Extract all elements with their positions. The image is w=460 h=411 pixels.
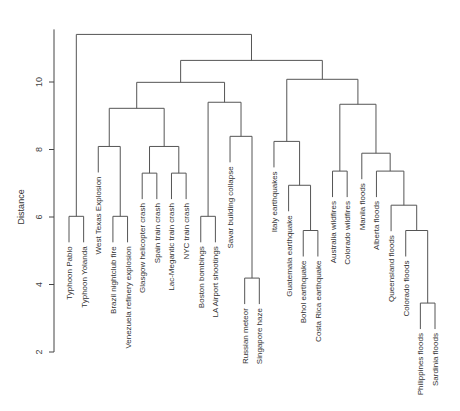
y-axis: 246810Distance: [16, 29, 54, 354]
y-tick-label: 4: [34, 282, 44, 287]
leaf-label: Typhoon Pablo: [65, 246, 74, 300]
leaf-label: Costa Rica earthquake: [314, 260, 323, 342]
leaf-label: Philippines floods: [416, 333, 425, 395]
leaf-label: Typhoon Yolanda: [80, 246, 89, 308]
leaf-label: Savar building collapse: [226, 166, 235, 249]
leaf-label: Spain train crash: [153, 203, 162, 263]
leaf-label: Manila floods: [358, 183, 367, 230]
leaf-label: LA Airport shootings: [211, 246, 220, 317]
leaf-label: Sardinia floods: [431, 333, 440, 386]
leaf-label: NYC train crash: [182, 203, 191, 259]
leaf-label: Lac-Megantic train crash: [167, 203, 176, 291]
leaf-label: Glasgow helicopter crash: [138, 203, 147, 293]
leaf-label: Boston bombings: [197, 246, 206, 308]
leaf-label: Italy earthquakes: [270, 171, 279, 232]
leaf-label: Brazil nightclub fire: [109, 246, 118, 314]
leaf-label: Bohol earthquake: [299, 260, 308, 323]
leaf-label: Guatemala earthquake: [285, 215, 294, 297]
dendrogram-chart: 246810Distance Typhoon PabloTyphoon Yola…: [0, 0, 460, 411]
leaf-label: Colorado wildfires: [343, 201, 352, 265]
leaf-label: Australia wildfires: [329, 201, 338, 263]
y-tick-label: 10: [34, 77, 44, 87]
leaf-label: Venezuela refinery explosion: [124, 246, 133, 348]
leaf-label: Singapore haze: [255, 308, 264, 365]
leaf-label: Colorado floods: [402, 261, 411, 317]
y-axis-label: Distance: [16, 189, 26, 224]
leaf-label: Queensland floods: [387, 235, 396, 302]
y-tick-label: 2: [34, 349, 44, 354]
leaf-label: Alberta floods: [372, 201, 381, 250]
y-tick-label: 6: [34, 214, 44, 219]
y-tick-label: 8: [34, 147, 44, 152]
leaf-label: West Texas Explosion: [94, 176, 103, 254]
leaf-label: Russian meteor: [241, 308, 250, 364]
